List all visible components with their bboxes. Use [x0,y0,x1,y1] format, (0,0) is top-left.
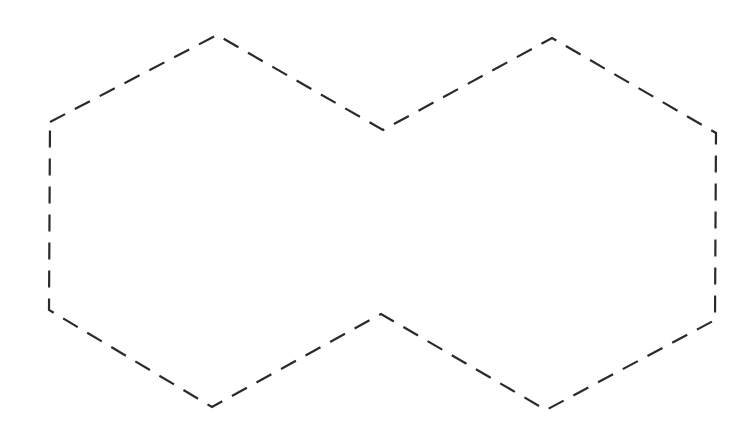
diagram-canvas [0,0,747,430]
fused-hexagons-dashed-outline [49,35,716,410]
